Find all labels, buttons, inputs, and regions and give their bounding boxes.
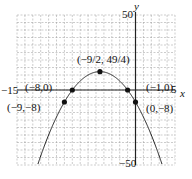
- data-point: [62, 99, 67, 104]
- data-point: [133, 99, 138, 104]
- parabola-chart: x y −15 5 50 −50 (−9/2, 49/4) (−8,0) (−1…: [0, 0, 192, 179]
- points: [62, 69, 138, 105]
- point-label-neg8-0: (−8,0): [25, 81, 53, 94]
- y-min-tick-label: −50: [119, 157, 137, 169]
- data-point: [125, 87, 130, 92]
- point-label-neg9-neg8: (−9,−8): [7, 101, 41, 114]
- vertex-label: (−9/2, 49/4): [77, 53, 130, 66]
- x-min-tick-label: −15: [1, 84, 19, 96]
- point-label-neg1-0: (−1,0): [146, 81, 174, 94]
- y-axis-label: y: [133, 0, 139, 12]
- point-label-0-neg8: (0,−8): [146, 102, 174, 115]
- y-max-tick-label: 50: [122, 8, 134, 20]
- x-axis-label: x: [179, 87, 185, 99]
- data-point: [70, 87, 75, 92]
- data-point: [97, 69, 102, 74]
